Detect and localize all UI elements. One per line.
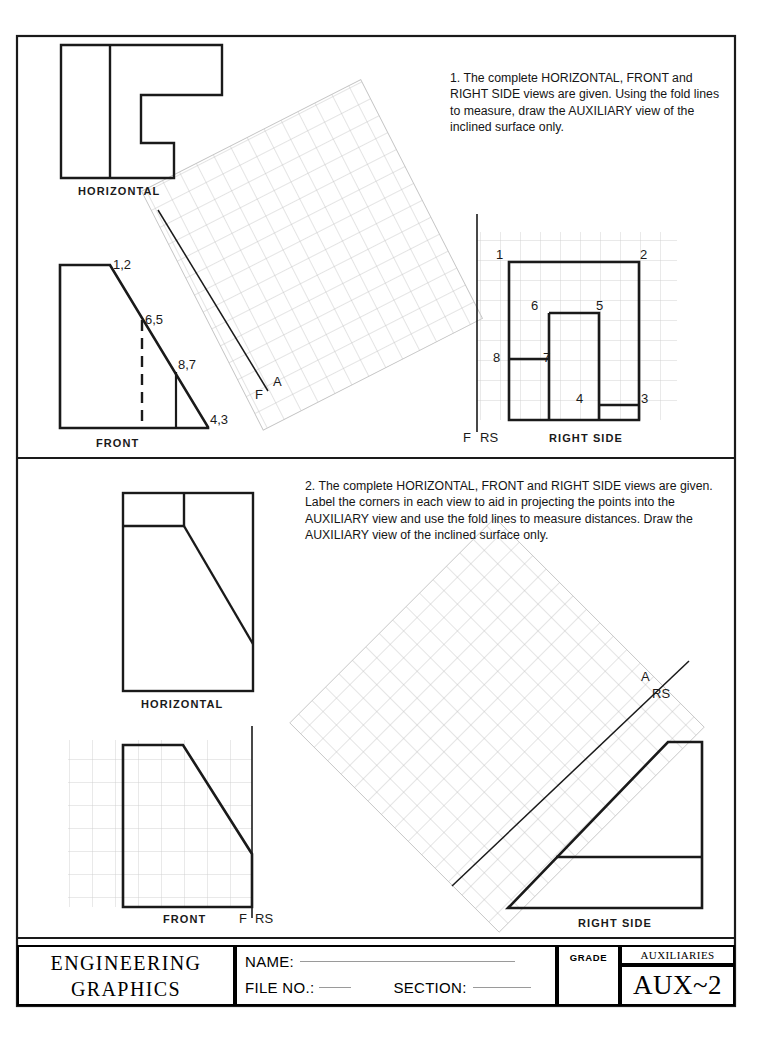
problem-2-front-view [68, 726, 252, 918]
file-no-input[interactable] [319, 987, 351, 988]
name-label: NAME: [245, 953, 294, 970]
point-label-7: 7 [543, 350, 550, 365]
sheet-number-text: AUX~2 [633, 970, 722, 1001]
problem-2-auxiliary-grid [290, 518, 704, 932]
view-label-front: FRONT [96, 437, 139, 449]
fold-label-RS: RS [480, 430, 498, 445]
unit-title-text: AUXILIARIES [640, 949, 714, 961]
view-label-horizontal-2: HORIZONTAL [141, 698, 223, 710]
point-label-4: 4 [576, 391, 583, 406]
fold-label-A: A [273, 374, 282, 389]
problem-1-front-view [60, 265, 208, 428]
grade-cell[interactable]: GRADE [557, 945, 620, 1006]
section-label: SECTION: [393, 979, 466, 996]
unit-title-cell: AUXILIARIES [620, 945, 735, 965]
course-name-cell: ENGINEERING GRAPHICS [17, 945, 235, 1006]
fold-label-F2: F [463, 430, 471, 445]
fold-label-RS3: RS [255, 911, 273, 926]
problem-2-drawing: A RS F RS HORIZONTAL FRONT RIGHT SIDE [68, 493, 704, 932]
title-block: ENGINEERING GRAPHICS NAME: FILE NO.: SEC… [17, 945, 735, 1006]
problem-1-horizontal-view [61, 45, 222, 178]
problem-1-instruction: 1. The complete HORIZONTAL, FRONT and RI… [450, 70, 730, 136]
point-label-4-3: 4,3 [210, 412, 228, 427]
problem-2-horizontal-view [123, 493, 253, 691]
course-line-2: GRAPHICS [71, 976, 181, 1002]
grade-label: GRADE [559, 952, 618, 963]
point-label-1-2: 1,2 [113, 257, 131, 272]
fold-label-F3: F [239, 911, 247, 926]
point-label-1: 1 [496, 247, 503, 262]
fold-label-A2: A [641, 669, 650, 684]
worksheet-sheet: 1,2 6,5 8,7 4,3 1 2 6 5 8 7 4 3 A F F [0, 0, 768, 1051]
point-label-6-5: 6,5 [145, 312, 163, 327]
student-fields-cell: NAME: FILE NO.: SECTION: [235, 945, 557, 1006]
file-no-label: FILE NO.: [245, 979, 314, 996]
problem-2-instruction: 2. The complete HORIZONTAL, FRONT and RI… [305, 478, 735, 544]
course-line-1: ENGINEERING [51, 950, 202, 976]
point-label-6: 6 [531, 298, 538, 313]
view-label-horizontal: HORIZONTAL [78, 185, 160, 197]
point-label-2: 2 [640, 247, 647, 262]
point-label-8-7: 8,7 [178, 357, 196, 372]
view-label-front-2: FRONT [163, 913, 206, 925]
point-label-5: 5 [596, 298, 603, 313]
fold-label-RS2: RS [652, 686, 670, 701]
sheet-number-cell: AUX~2 [620, 965, 735, 1006]
name-input[interactable] [300, 961, 515, 962]
fold-label-F: F [255, 387, 263, 402]
view-label-right-side-2: RIGHT SIDE [578, 917, 652, 929]
point-label-8: 8 [493, 350, 500, 365]
problem-1-auxiliary-grid [142, 80, 483, 430]
section-input[interactable] [473, 987, 531, 988]
point-label-3: 3 [641, 391, 648, 406]
view-label-right-side: RIGHT SIDE [549, 432, 623, 444]
